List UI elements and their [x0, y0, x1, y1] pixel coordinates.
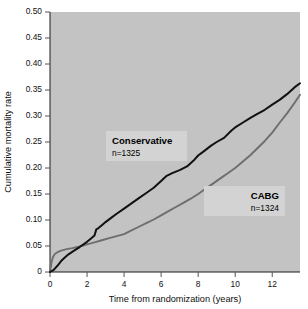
- y-tick-label: 0: [37, 266, 42, 276]
- y-tick-label: 0.15: [26, 188, 43, 198]
- y-tick-label: 0.30: [26, 110, 43, 120]
- annotation-cabg: CABG n=1324: [204, 186, 285, 216]
- annotation-title-cabg: CABG: [251, 190, 279, 201]
- x-tick-label: 10: [231, 279, 241, 289]
- y-tick-label: 0.25: [26, 136, 43, 146]
- annotation-title-conservative: Conservative: [112, 135, 172, 146]
- x-tick-label: 8: [196, 279, 201, 289]
- x-tick-label: 6: [159, 279, 164, 289]
- y-axis-title: Cumulative mortality rate: [3, 91, 13, 193]
- y-tick-label: 0.05: [26, 240, 43, 250]
- x-tick-label: 2: [85, 279, 90, 289]
- y-tick-label: 0.20: [26, 162, 43, 172]
- x-axis-title: Time from randomization (years): [109, 294, 241, 304]
- y-tick-label: 0.45: [26, 32, 43, 42]
- y-tick-label: 0.40: [26, 58, 43, 68]
- annotation-subtitle-conservative: n=1325: [112, 148, 141, 158]
- annotation-conservative: Conservative n=1325: [106, 131, 187, 161]
- y-tick-label: 0.35: [26, 84, 43, 94]
- x-tick-label: 4: [122, 279, 127, 289]
- cumulative-mortality-chart: 00.050.100.150.200.250.300.350.400.450.5…: [0, 0, 308, 309]
- y-tick-label: 0.10: [26, 214, 43, 224]
- x-tick-label: 0: [48, 279, 53, 289]
- y-tick-label: 0.50: [26, 6, 43, 16]
- annotation-subtitle-cabg: n=1324: [251, 203, 280, 213]
- x-tick-label: 12: [268, 279, 278, 289]
